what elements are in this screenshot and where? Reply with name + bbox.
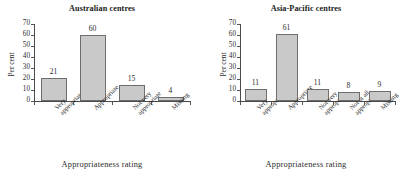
y-axis-line bbox=[240, 24, 241, 102]
panel-asia-pacific-centres: Asia-Pacific centres Per cent 0102030405… bbox=[204, 0, 408, 173]
bar-value-label: 15 bbox=[118, 75, 146, 83]
y-tick-mark bbox=[237, 57, 240, 58]
x-axis-label: Appropriateness rating bbox=[204, 160, 408, 169]
y-tick-mark bbox=[237, 79, 240, 80]
y-tick-label: 50 bbox=[12, 42, 30, 49]
y-tick-label: 40 bbox=[218, 53, 236, 60]
y-axis-line bbox=[34, 24, 35, 102]
x-tick-mark bbox=[240, 102, 241, 105]
bar-value-label: 21 bbox=[40, 68, 68, 76]
bar bbox=[276, 34, 298, 101]
plot-area-asia-pacific: Per cent 01020304050607011Veryappropriat… bbox=[204, 0, 408, 173]
y-tick-mark bbox=[31, 57, 34, 58]
x-tick-mark bbox=[190, 102, 191, 105]
panel-australian-centres: Australian centres Per cent 010203040506… bbox=[0, 0, 204, 173]
y-tick-label: 50 bbox=[218, 42, 236, 49]
y-tick-label: 30 bbox=[218, 64, 236, 71]
y-tick-label: 0 bbox=[218, 97, 236, 104]
y-tick-label: 10 bbox=[218, 86, 236, 93]
y-tick-mark bbox=[31, 35, 34, 36]
bar-value-label: 11 bbox=[242, 79, 270, 87]
y-tick-label: 20 bbox=[218, 75, 236, 82]
x-tick-mark bbox=[364, 102, 365, 105]
bar-value-label: 4 bbox=[157, 87, 185, 95]
y-tick-label: 60 bbox=[12, 31, 30, 38]
bar-value-label: 61 bbox=[273, 24, 301, 32]
y-tick-label: 20 bbox=[12, 75, 30, 82]
x-tick-mark bbox=[271, 102, 272, 105]
y-tick-label: 70 bbox=[12, 20, 30, 27]
y-tick-label: 60 bbox=[218, 31, 236, 38]
bar-value-label: 11 bbox=[304, 79, 332, 87]
y-tick-label: 10 bbox=[12, 86, 30, 93]
x-tick-mark bbox=[112, 102, 113, 105]
x-tick-mark bbox=[73, 102, 74, 105]
y-tick-mark bbox=[237, 35, 240, 36]
two-panel-bar-chart-figure: Australian centres Per cent 010203040506… bbox=[0, 0, 408, 173]
y-tick-mark bbox=[31, 68, 34, 69]
x-tick-mark bbox=[151, 102, 152, 105]
x-tick-mark bbox=[302, 102, 303, 105]
x-tick-mark bbox=[333, 102, 334, 105]
bar-value-label: 9 bbox=[366, 81, 394, 89]
x-tick-mark bbox=[34, 102, 35, 105]
bar-value-label: 60 bbox=[79, 25, 107, 33]
y-tick-label: 0 bbox=[12, 97, 30, 104]
y-tick-label: 30 bbox=[12, 64, 30, 71]
y-tick-mark bbox=[31, 90, 34, 91]
x-tick-mark bbox=[395, 102, 396, 105]
y-tick-mark bbox=[237, 90, 240, 91]
y-tick-label: 70 bbox=[218, 20, 236, 27]
x-axis-label: Appropriateness rating bbox=[0, 160, 204, 169]
y-tick-label: 40 bbox=[12, 53, 30, 60]
y-tick-mark bbox=[31, 24, 34, 25]
y-tick-mark bbox=[31, 46, 34, 47]
y-tick-mark bbox=[237, 24, 240, 25]
y-tick-mark bbox=[31, 79, 34, 80]
y-tick-mark bbox=[237, 68, 240, 69]
bar-value-label: 8 bbox=[335, 82, 363, 90]
bar bbox=[80, 35, 106, 101]
plot-area-australian: Per cent 01020304050607021Veryappropriat… bbox=[0, 0, 204, 173]
y-tick-mark bbox=[237, 46, 240, 47]
